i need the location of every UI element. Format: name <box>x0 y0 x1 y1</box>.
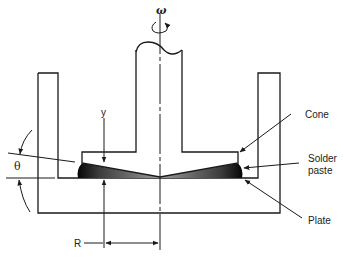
omega-label: ω <box>156 4 167 17</box>
plate-label: Plate <box>308 215 331 226</box>
cone-plate-diagram: ω y θ R Cone Solder paste Plate <box>0 0 343 257</box>
theta-label: θ <box>14 160 21 173</box>
r-label: R <box>74 238 81 249</box>
y-label: y <box>101 107 106 118</box>
solder-label-line1: Solder <box>308 153 338 164</box>
plate <box>38 73 280 213</box>
solder-label-line2: paste <box>308 165 333 176</box>
cone-label: Cone <box>305 109 329 120</box>
callout-leaders <box>240 114 302 218</box>
